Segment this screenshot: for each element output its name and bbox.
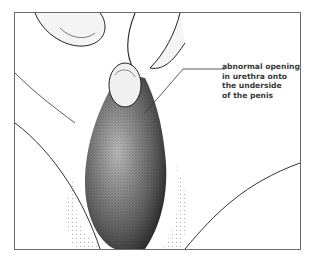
illustration-frame: [14, 12, 301, 250]
anatomical-drawing: [15, 13, 300, 249]
annotation-label: abnormal opening in urethra onto the und…: [222, 62, 302, 100]
annotation-line-2: in urethra onto: [222, 72, 302, 82]
leader-line: [145, 69, 225, 113]
annotation-line-4: of the penis: [222, 91, 302, 101]
annotation-line-3: the underside: [222, 81, 302, 91]
annotation-line-1: abnormal opening: [222, 62, 302, 72]
